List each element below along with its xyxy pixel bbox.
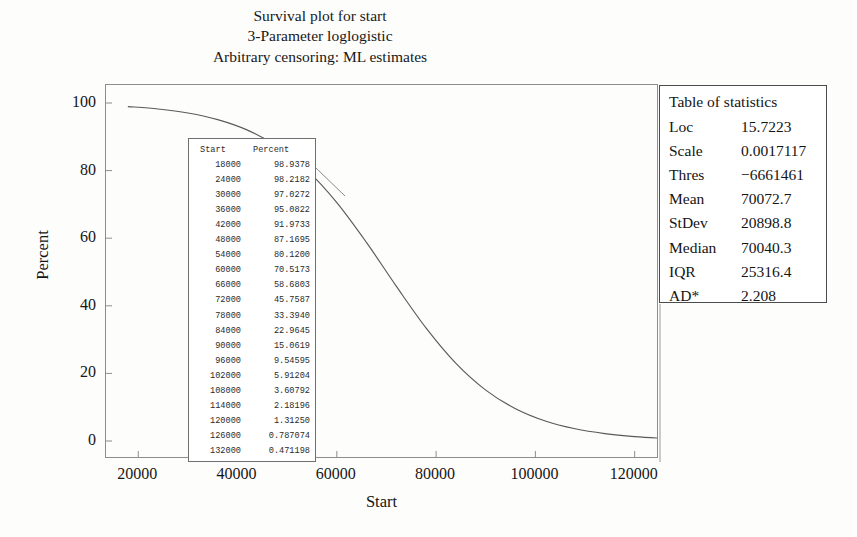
statistics-row: Median70040.3 [669,236,820,260]
y-tick-label: 0 [88,431,96,449]
data-table-cell-percent: 9.54595 [241,354,310,369]
data-table-cell-start: 24000 [195,173,241,188]
statistic-label: AD* [669,284,741,308]
x-axis-title: Start [105,492,658,512]
y-tick-label: 60 [80,228,96,246]
statistic-value: 15.7223 [741,115,820,139]
x-tick-label: 60000 [316,465,356,483]
statistic-label: Thres [669,163,741,187]
x-tick-label: 20000 [117,465,157,483]
y-tick-label: 80 [80,161,96,179]
data-table-cell-percent: 98.2182 [241,173,310,188]
data-table-row: 1260000.787074 [195,429,310,444]
statistic-label: StDev [669,211,741,235]
data-table-row: 7800033.3940 [195,309,310,324]
data-table-header-row: Start Percent [195,143,310,158]
data-table-row: 2400098.2182 [195,173,310,188]
data-table-cell-start: 78000 [195,309,241,324]
statistic-value: 0.0017117 [741,139,820,163]
data-table-cell-start: 54000 [195,248,241,263]
statistic-value: −6661461 [741,163,820,187]
data-table-cell-percent: 3.60792 [241,384,310,399]
data-table-cell-percent: 15.0619 [241,339,310,354]
data-table-cell-percent: 95.0822 [241,203,310,218]
statistic-value: 25316.4 [741,260,820,284]
statistics-row: Loc15.7223 [669,115,820,139]
data-table-cell-percent: 22.9645 [241,324,310,339]
statistic-value: 20898.8 [741,211,820,235]
data-table-cell-start: 36000 [195,203,241,218]
statistic-label: Mean [669,187,741,211]
data-table-callout: Start Percent 1800098.93782400098.218230… [188,138,316,462]
x-tick-label: 40000 [217,465,257,483]
chart-title: Survival plot for start [0,6,640,26]
data-table-row: 3600095.0822 [195,203,310,218]
data-table-cell-start: 30000 [195,188,241,203]
chart-subtitle-2: Arbitrary censoring: ML estimates [0,47,640,67]
statistic-value: 2.208 [741,284,820,308]
data-table-body: 1800098.93782400098.21823000097.02723600… [195,158,310,459]
data-table-row: 1320000.471198 [195,444,310,459]
data-table-cell-start: 18000 [195,158,241,173]
y-axis-title: Percent [33,205,53,305]
chart-title-block: Survival plot for start 3-Parameter logl… [0,6,640,67]
y-tick-label: 100 [72,93,96,111]
data-table-cell-start: 84000 [195,324,241,339]
data-table-cell-start: 48000 [195,233,241,248]
data-table-cell-percent: 80.1200 [241,248,310,263]
statistic-label: Scale [669,139,741,163]
statistics-row: AD*2.208 [669,284,820,308]
data-table-cell-start: 126000 [195,429,241,444]
statistics-callout: Table of statistics Loc15.7223Scale0.001… [659,85,827,303]
data-table-cell-percent: 5.91204 [241,369,310,384]
data-table-row: 4200091.9733 [195,218,310,233]
data-table-cell-start: 120000 [195,414,241,429]
data-table-cell-percent: 2.18196 [241,399,310,414]
statistics-row: Scale0.0017117 [669,139,820,163]
data-table-row: 960009.54595 [195,354,310,369]
data-table-row: 7200045.7587 [195,293,310,308]
x-tick-label: 120000 [610,465,658,483]
y-axis-tick-labels: 100806040200 [50,0,96,537]
data-table-row: 1140002.18196 [195,399,310,414]
data-table-row: 6000070.5173 [195,263,310,278]
x-tick-label: 100000 [510,465,558,483]
data-table-cell-percent: 1.31250 [241,414,310,429]
data-table-row: 1800098.9378 [195,158,310,173]
data-table-cell-percent: 91.9733 [241,218,310,233]
data-table-row: 4800087.1695 [195,233,310,248]
x-tick-label: 80000 [415,465,455,483]
data-table-cell-start: 114000 [195,399,241,414]
statistic-label: IQR [669,260,741,284]
data-table-cell-percent: 0.787074 [241,429,310,444]
statistic-label: Median [669,236,741,260]
axis-tick-marks [106,103,635,457]
data-table-cell-start: 96000 [195,354,241,369]
data-table-row: 6600058.6803 [195,278,310,293]
statistics-header: Table of statistics [669,90,820,115]
data-table-row: 5400080.1200 [195,248,310,263]
statistics-row: IQR25316.4 [669,260,820,284]
statistic-label: Loc [669,115,741,139]
statistics-table: Loc15.7223Scale0.0017117Thres−6661461Mea… [669,115,820,309]
survival-plot-page: Survival plot for start 3-Parameter logl… [0,0,857,537]
statistics-row: StDev20898.8 [669,211,820,235]
data-table-cell-start: 102000 [195,369,241,384]
statistic-value: 70040.3 [741,236,820,260]
statistic-value: 70072.7 [741,187,820,211]
y-tick-label: 40 [80,296,96,314]
data-table-cell-percent: 0.471198 [241,444,310,459]
data-table-cell-start: 66000 [195,278,241,293]
data-table-cell-percent: 58.6803 [241,278,310,293]
data-table-cell-percent: 70.5173 [241,263,310,278]
data-table-cell-percent: 45.7587 [241,293,310,308]
data-table-row: 8400022.9645 [195,324,310,339]
data-table-row: 1200001.31250 [195,414,310,429]
data-table-cell-percent: 98.9378 [241,158,310,173]
y-tick-label: 20 [80,363,96,381]
data-table-row: 3000097.0272 [195,188,310,203]
data-table-header-percent: Percent [241,143,310,158]
data-table-row: 1080003.60792 [195,384,310,399]
chart-subtitle: 3-Parameter loglogistic [0,26,640,46]
data-table-cell-start: 42000 [195,218,241,233]
